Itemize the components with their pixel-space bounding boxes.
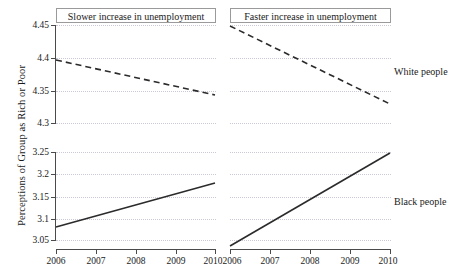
strip-header-slower: Slower increase in unemployment [56, 8, 216, 23]
y-tick [51, 25, 55, 26]
group-label-black: Black people [394, 196, 446, 207]
x-tick-label: 2008 [127, 256, 146, 266]
x-tick [176, 250, 177, 254]
y-tick-label: 4.45 [20, 20, 49, 30]
y-tick [51, 91, 55, 92]
y-tick-label: 3.2 [20, 169, 49, 179]
y-axis-top [55, 25, 56, 124]
x-tick [136, 250, 137, 254]
x-tick [310, 250, 311, 254]
x-tick [215, 250, 216, 254]
panel-black-slower [56, 152, 216, 241]
y-tick-label: 4.3 [20, 118, 49, 128]
y-tick [51, 240, 55, 241]
x-tick [270, 250, 271, 254]
chart-figure: Perceptions of Group as Rich or Poor Slo… [0, 0, 454, 280]
y-tick [51, 58, 55, 59]
series-line-black-slower [56, 152, 216, 241]
x-tick-label: 2010 [379, 256, 398, 266]
group-label-white: White people [394, 66, 448, 77]
panel-black-faster [230, 152, 391, 241]
panel-white-faster [230, 25, 391, 124]
y-tick-label: 3.05 [20, 235, 49, 245]
x-tick-label: 2006 [223, 256, 242, 266]
y-tick-label: 3.15 [20, 192, 49, 202]
y-tick [51, 219, 55, 220]
y-tick [51, 152, 55, 153]
x-tick-label: 2010 [204, 256, 223, 266]
x-tick-label: 2007 [87, 256, 106, 266]
x-tick [56, 250, 57, 254]
y-tick-label: 3.1 [20, 214, 49, 224]
y-tick [51, 197, 55, 198]
x-tick [390, 250, 391, 254]
panel-white-slower [56, 25, 216, 124]
x-tick-label: 2009 [167, 256, 186, 266]
y-tick-label: 4.4 [20, 53, 49, 63]
y-axis-bottom [55, 152, 56, 241]
x-tick [230, 250, 231, 254]
strip-header-faster: Faster increase in unemployment [230, 8, 391, 23]
y-tick-label: 4.35 [20, 86, 49, 96]
y-tick-label: 3.25 [20, 147, 49, 157]
series-line-black-faster [230, 152, 391, 241]
x-tick-label: 2007 [261, 256, 280, 266]
x-tick-label: 2008 [301, 256, 320, 266]
y-tick [51, 123, 55, 124]
series-line-white-faster [230, 25, 391, 124]
x-tick [350, 250, 351, 254]
y-tick [51, 174, 55, 175]
x-tick [96, 250, 97, 254]
x-tick-label: 2009 [341, 256, 360, 266]
series-line-white-slower [56, 25, 216, 124]
x-tick-label: 2006 [47, 256, 66, 266]
